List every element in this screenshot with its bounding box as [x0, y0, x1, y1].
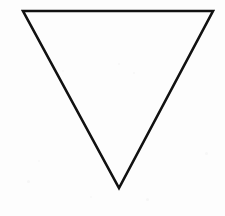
drawing-canvas: [0, 0, 225, 216]
triangle-shape-svg: [0, 0, 225, 216]
triangle-outline: [23, 11, 213, 188]
